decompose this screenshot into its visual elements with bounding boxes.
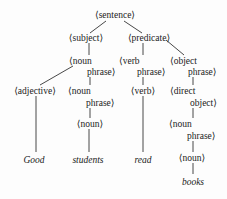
- node-inner-noun: ⟨noun⟩: [77, 119, 103, 129]
- node-inner-noun-phrase-line2: phrase⟩: [86, 98, 115, 108]
- node-subject: ⟨subject⟩: [69, 33, 103, 43]
- node-direct-object-line1: ⟨direct: [170, 86, 196, 96]
- node-noun-phrase-line1: ⟨noun: [69, 56, 92, 66]
- node-adjective: ⟨adjective⟩: [14, 86, 56, 96]
- tree-edges: [36, 21, 193, 174]
- leaf-read: read: [134, 155, 151, 165]
- edge-sentence-predicate: [124, 21, 142, 33]
- node-sentence: ⟨sentence⟩: [95, 10, 135, 20]
- node-verb-phrase-line2: phrase⟩: [137, 67, 166, 77]
- edge-sentence-subject: [90, 21, 106, 33]
- leaf-good: Good: [23, 155, 44, 165]
- tree-svg: ⟨sentence⟩ ⟨subject⟩ ⟨predicate⟩ ⟨noun p…: [0, 0, 227, 199]
- node-predicate: ⟨predicate⟩: [128, 33, 170, 43]
- node-inner-noun-phrase-line1: ⟨noun: [68, 86, 91, 96]
- node-noun-phrase-line2: phrase⟩: [87, 67, 116, 77]
- node-object-noun-phrase-line1: ⟨noun: [169, 119, 192, 129]
- node-object-noun: ⟨noun⟩: [179, 153, 205, 163]
- node-object-noun-phrase-line2: phrase⟩: [187, 131, 216, 141]
- tree-leaves: Good students read books: [23, 155, 204, 187]
- node-object-phrase-line1: ⟨object: [170, 56, 197, 66]
- node-verb-phrase-line1: ⟨verb: [119, 56, 140, 66]
- node-direct-object-line2: object⟩: [190, 98, 217, 108]
- leaf-books: books: [182, 177, 204, 187]
- node-object-phrase-line2: phrase⟩: [188, 67, 217, 77]
- edge-nounphrase-adjective: [40, 66, 73, 85]
- node-verb: ⟨verb⟩: [131, 86, 155, 96]
- parse-tree-diagram: ⟨sentence⟩ ⟨subject⟩ ⟨predicate⟩ ⟨noun p…: [0, 0, 227, 199]
- tree-nodes: ⟨sentence⟩ ⟨subject⟩ ⟨predicate⟩ ⟨noun p…: [14, 10, 217, 163]
- leaf-students: students: [72, 155, 103, 165]
